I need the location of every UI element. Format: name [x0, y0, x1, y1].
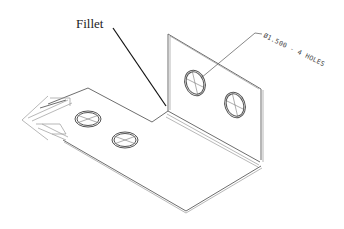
end-dimension-arrows [22, 96, 72, 140]
fillet-callout: Fillet [76, 16, 166, 106]
fillet-bend [166, 111, 260, 167]
base-hole-2 [112, 132, 138, 148]
flange-hole-2 [221, 89, 249, 120]
fillet-label: Fillet [76, 16, 104, 31]
bracket-drawing: Fillet Ø1.500 - 4 HOLES [0, 0, 344, 229]
base-hole-1 [75, 111, 101, 127]
hole-note-label: Ø1.500 - 4 HOLES [262, 32, 326, 69]
vertical-flange [168, 34, 263, 162]
hole-note-callout: Ø1.500 - 4 HOLES [201, 32, 326, 78]
flange-hole-1 [181, 67, 209, 98]
base-plate [48, 88, 262, 213]
